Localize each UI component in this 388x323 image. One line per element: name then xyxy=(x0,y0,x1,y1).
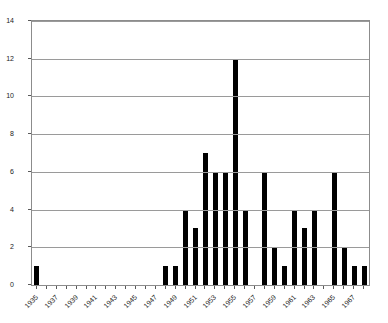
x-tick-label-1953: 1953 xyxy=(201,294,218,311)
y-tick-label-4: 4 xyxy=(0,205,14,212)
y-tick-mark-4 xyxy=(28,209,31,210)
y-tick-label-2: 2 xyxy=(0,243,14,250)
bar xyxy=(302,228,307,285)
bars-layer xyxy=(32,21,369,285)
bar xyxy=(262,172,267,285)
gridline-y-4 xyxy=(32,210,369,211)
y-tick-label-10: 10 xyxy=(0,92,14,99)
x-tick-label-1939: 1939 xyxy=(63,294,80,311)
gridline-y-10 xyxy=(32,96,369,97)
bar xyxy=(352,266,357,285)
bar xyxy=(163,266,168,285)
gridline-y-6 xyxy=(32,172,369,173)
gridline-y-8 xyxy=(32,134,369,135)
bar xyxy=(342,247,347,285)
x-tick-label-1935: 1935 xyxy=(23,294,40,311)
y-tick-label-14: 14 xyxy=(0,17,14,24)
x-tick-label-1963: 1963 xyxy=(300,294,317,311)
x-tick-label-1965: 1965 xyxy=(320,294,337,311)
x-tick-label-1945: 1945 xyxy=(122,294,139,311)
gridline-y-14 xyxy=(32,21,369,22)
x-tick-label-1961: 1961 xyxy=(281,294,298,311)
gridline-y-2 xyxy=(32,247,369,248)
bar xyxy=(272,247,277,285)
y-tick-mark-0 xyxy=(28,284,31,285)
y-tick-label-6: 6 xyxy=(0,167,14,174)
x-tick-label-1955: 1955 xyxy=(221,294,238,311)
x-tick-label-1947: 1947 xyxy=(142,294,159,311)
x-tick-label-1951: 1951 xyxy=(182,294,199,311)
bar xyxy=(332,172,337,285)
y-tick-label-8: 8 xyxy=(0,130,14,137)
bar xyxy=(193,228,198,285)
bar xyxy=(223,172,228,285)
x-tick-label-1937: 1937 xyxy=(43,294,60,311)
x-tick-label-1943: 1943 xyxy=(102,294,119,311)
bar xyxy=(34,266,39,285)
x-tick-label-1959: 1959 xyxy=(261,294,278,311)
y-tick-mark-2 xyxy=(28,246,31,247)
plot-area xyxy=(31,20,370,286)
x-tick-label-1967: 1967 xyxy=(340,294,357,311)
y-tick-label-12: 12 xyxy=(0,54,14,61)
y-tick-mark-12 xyxy=(28,58,31,59)
x-tick-label-1957: 1957 xyxy=(241,294,258,311)
y-tick-mark-8 xyxy=(28,133,31,134)
x-axis-labels: 1935193719391941194319451947194919511953… xyxy=(31,289,370,323)
gridline-y-12 xyxy=(32,59,369,60)
x-tick-label-1941: 1941 xyxy=(82,294,99,311)
bar xyxy=(213,172,218,285)
y-tick-mark-14 xyxy=(28,20,31,21)
y-tick-mark-6 xyxy=(28,171,31,172)
y-tick-mark-10 xyxy=(28,95,31,96)
y-tick-label-0: 0 xyxy=(0,281,14,288)
bar xyxy=(282,266,287,285)
bar-chart: 02468101214 1935193719391941194319451947… xyxy=(0,0,388,323)
x-tick-label-1949: 1949 xyxy=(162,294,179,311)
bar xyxy=(173,266,178,285)
bar xyxy=(362,266,367,285)
